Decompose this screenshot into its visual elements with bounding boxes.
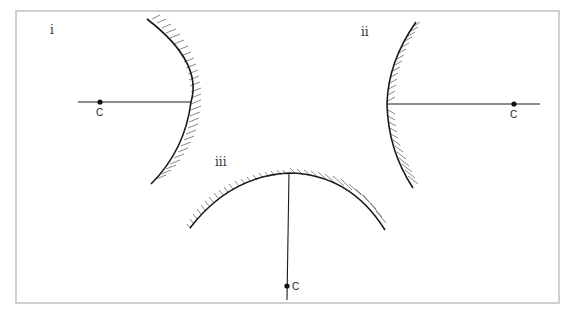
panel-ii: ii — [361, 22, 540, 188]
mirrors-diagram: i — [0, 0, 573, 322]
mirror-i-hatching — [152, 15, 201, 179]
mirror-ii-hatching — [388, 22, 420, 184]
mirror-iii-surface — [190, 173, 385, 230]
mirror-iii-hatching — [187, 168, 386, 229]
panel-label-iii: iii — [215, 155, 227, 169]
centre-label-i: C — [96, 107, 103, 118]
centre-label-ii: C — [510, 109, 517, 120]
centre-point-ii — [511, 101, 516, 106]
centre-point-i — [97, 99, 102, 104]
principal-axis-iii — [287, 173, 289, 300]
centre-point-iii — [284, 283, 289, 288]
panel-label-ii: ii — [361, 25, 369, 39]
panel-i: i — [50, 15, 201, 184]
panel-label-i: i — [50, 23, 54, 37]
panel-iii: iii — [187, 155, 386, 300]
mirror-ii-surface — [387, 22, 416, 188]
centre-label-iii: C — [292, 281, 299, 292]
